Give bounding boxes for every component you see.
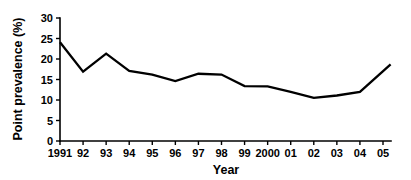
y-tick-label: 30 (41, 12, 53, 24)
y-tick-label: 10 (41, 94, 53, 106)
x-tick-label: 02 (308, 147, 320, 159)
y-tick-group: 051015202530 (41, 12, 60, 147)
y-tick-label: 25 (41, 33, 53, 45)
axes-group (60, 18, 391, 141)
x-tick-label: 04 (354, 147, 367, 159)
point-prevalence-line-chart: 051015202530 199192939495969798992000010… (0, 0, 411, 180)
chart-figure: 051015202530 199192939495969798992000010… (0, 0, 411, 180)
x-tick-label: 97 (192, 147, 204, 159)
y-tick-label: 20 (41, 53, 53, 65)
x-tick-label: 95 (146, 147, 158, 159)
x-tick-label: 94 (123, 147, 136, 159)
x-tick-label: 1991 (48, 147, 72, 159)
x-tick-label: 05 (377, 147, 389, 159)
x-tick-label: 01 (285, 147, 297, 159)
x-tick-label: 2000 (255, 147, 279, 159)
x-tick-group: 1991929394959697989920000102030405 (48, 141, 389, 159)
y-tick-label: 15 (41, 74, 53, 86)
y-tick-label: 5 (47, 115, 53, 127)
x-tick-label: 98 (215, 147, 227, 159)
x-axis-label: Year (213, 163, 240, 177)
x-tick-label: 99 (238, 147, 250, 159)
y-tick-label: 0 (47, 135, 53, 147)
x-tick-label: 03 (331, 147, 343, 159)
y-axis-label: Point prevalence (%) (11, 18, 25, 141)
x-tick-label: 92 (77, 147, 89, 159)
x-tick-label: 93 (100, 147, 112, 159)
x-tick-label: 96 (169, 147, 181, 159)
series-line-point-prevalence (60, 42, 391, 98)
